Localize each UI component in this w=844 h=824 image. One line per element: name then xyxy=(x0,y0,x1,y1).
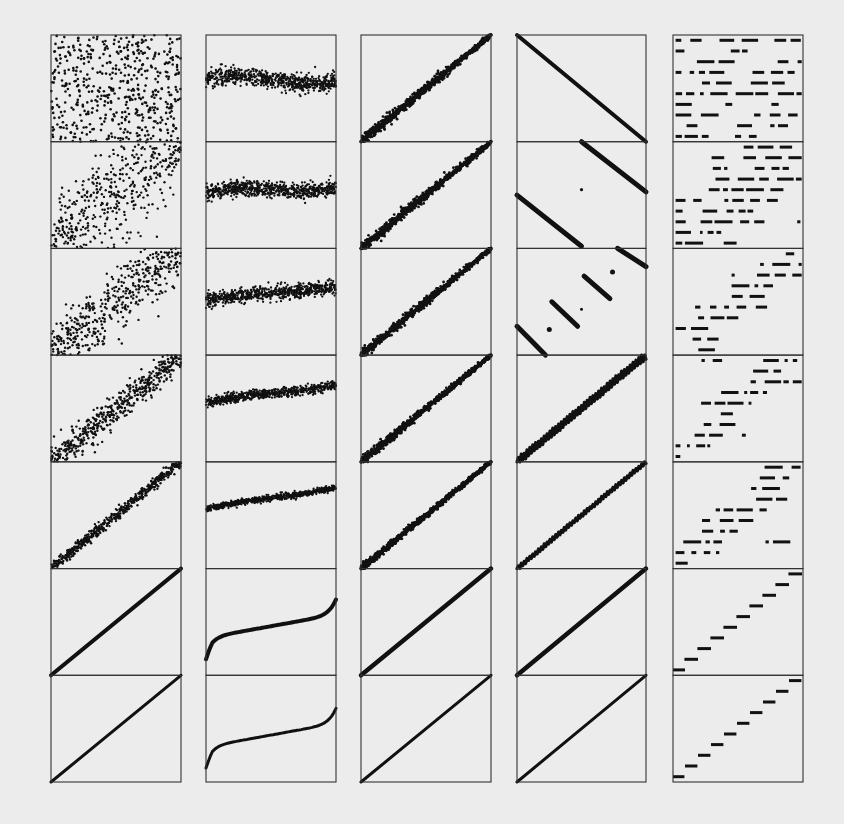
scatter-panel xyxy=(205,248,337,355)
panel-column-4 xyxy=(517,35,646,782)
panel-column-5 xyxy=(673,35,803,782)
scatter-panel xyxy=(517,462,646,569)
scatter-panel xyxy=(517,675,646,782)
scatter-panel xyxy=(673,462,803,569)
scatter-panel xyxy=(673,355,803,462)
panel-column-3 xyxy=(360,34,493,782)
scatter-panel xyxy=(205,35,337,142)
scatter-panel xyxy=(360,247,493,357)
scatter-panel xyxy=(517,35,646,142)
scatter-panel xyxy=(50,461,182,569)
scatter-panel xyxy=(517,248,646,355)
panel-frame xyxy=(517,248,646,355)
scatter-panel xyxy=(673,248,803,355)
scatter-panel xyxy=(205,142,337,249)
scatter-panel xyxy=(205,462,337,569)
panel-frame xyxy=(206,35,336,142)
scatter-panel xyxy=(51,675,181,782)
scatter-panel xyxy=(360,34,493,144)
scatter-panel xyxy=(360,461,492,570)
panel-frame xyxy=(206,675,336,782)
scatter-panel xyxy=(206,569,336,676)
scatter-panel xyxy=(673,569,803,676)
scatter-panel xyxy=(517,569,646,676)
scatter-panel xyxy=(51,569,181,676)
panel-frame xyxy=(673,142,803,249)
scatter-panel xyxy=(517,355,646,462)
panel-frame xyxy=(517,142,646,249)
panel-column-1 xyxy=(50,34,182,782)
scatter-panel xyxy=(673,142,803,249)
panel-frame xyxy=(673,355,803,462)
scatter-panel xyxy=(360,354,493,464)
scatterplot-grid-figure xyxy=(0,0,844,824)
scatter-panel xyxy=(360,140,493,250)
scatter-panel xyxy=(50,34,182,143)
scatter-panel xyxy=(51,248,182,357)
scatterplot-grid-svg xyxy=(0,0,844,824)
scatter-panel xyxy=(206,675,336,782)
panel-column-2 xyxy=(205,35,337,782)
scatter-panel xyxy=(50,141,182,249)
panel-frame xyxy=(206,569,336,676)
panel-frame xyxy=(206,462,336,569)
scatter-panel xyxy=(361,569,491,676)
scatter-panel xyxy=(517,142,646,249)
panel-frame xyxy=(206,355,336,462)
scatter-panel xyxy=(50,354,182,463)
scatter-panel xyxy=(673,35,803,142)
scatter-panel xyxy=(673,675,803,782)
scatter-panel xyxy=(205,355,337,462)
scatter-panel xyxy=(361,675,491,782)
